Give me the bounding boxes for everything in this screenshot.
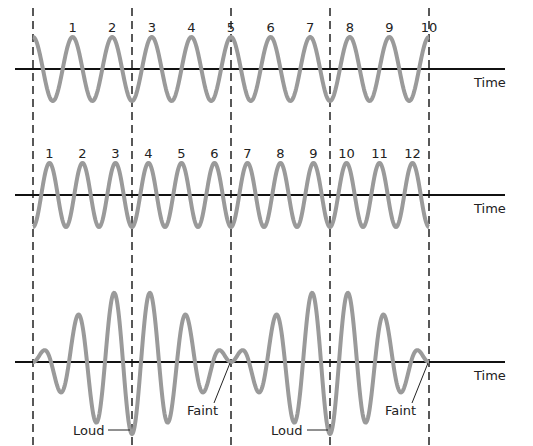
wave2-axis-label: Time: [474, 202, 506, 215]
wave2-cycle-12: 12: [404, 147, 421, 160]
wave1-cycle-2: 2: [108, 21, 116, 34]
faint-leader-1: [214, 363, 230, 403]
loud-label-2: Loud: [271, 424, 302, 437]
beat-axis-label: Time: [474, 369, 506, 382]
wave2-cycle-7: 7: [243, 147, 251, 160]
faint-label-1: Faint: [187, 404, 218, 417]
wave2-cycle-9: 9: [309, 147, 317, 160]
wave1-cycle-6: 6: [266, 21, 274, 34]
faint-label-2: Faint: [385, 404, 416, 417]
wave1-cycle-8: 8: [346, 21, 354, 34]
beats-diagram: [0, 0, 533, 446]
wave2-cycle-6: 6: [210, 147, 218, 160]
wave2-cycle-3: 3: [111, 147, 119, 160]
wave1-cycle-5: 5: [227, 21, 235, 34]
wave2-cycle-4: 4: [144, 147, 152, 160]
wave1-cycle-4: 4: [187, 21, 195, 34]
wave2-cycle-11: 11: [371, 147, 388, 160]
wave2-cycle-2: 2: [78, 147, 86, 160]
faint-leader-2: [412, 363, 428, 403]
wave2-cycle-8: 8: [276, 147, 284, 160]
loud-label-1: Loud: [73, 424, 104, 437]
wave2-cycle-1: 1: [45, 147, 53, 160]
wave2-cycle-5: 5: [177, 147, 185, 160]
wave1-axis-label: Time: [474, 76, 506, 89]
wave1-cycle-7: 7: [306, 21, 314, 34]
wave2-cycle-10: 10: [338, 147, 355, 160]
wave1-cycle-1: 1: [68, 21, 76, 34]
wave1-cycle-10: 10: [421, 21, 438, 34]
wave1-cycle-3: 3: [148, 21, 156, 34]
wave1-cycle-9: 9: [385, 21, 393, 34]
